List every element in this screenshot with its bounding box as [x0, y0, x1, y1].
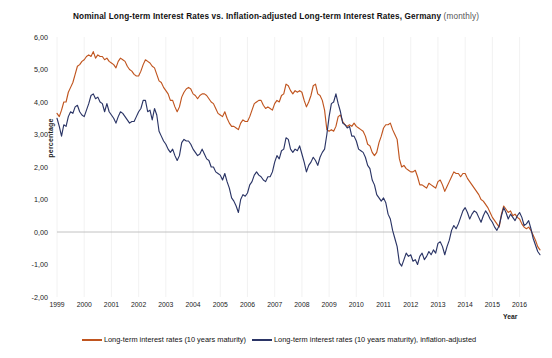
y-axis-tick-label: 6,00 — [18, 33, 48, 42]
y-axis-tick-label: -1,00 — [18, 260, 48, 269]
legend-item-real: Long-term interest rates (10 years matur… — [246, 335, 476, 344]
series-line-inflation-adjusted — [57, 94, 540, 266]
legend-label-nominal: Long-term interest rates (10 years matur… — [104, 335, 246, 344]
y-axis-tick-label: 2,00 — [18, 163, 48, 172]
chart-legend: Long-term interest rates (10 years matur… — [0, 335, 552, 344]
y-axis-tick-label: 1,00 — [18, 195, 48, 204]
legend-swatch-real — [252, 339, 272, 341]
x-axis-label: Year — [503, 313, 517, 320]
legend-swatch-nominal — [82, 339, 102, 341]
y-axis-tick-label: 0,00 — [18, 228, 48, 237]
y-axis-tick-label: 3,00 — [18, 130, 48, 139]
y-axis-tick-label: 5,00 — [18, 65, 48, 74]
chart-container: Nominal Long-term Interest Rates vs. Inf… — [0, 0, 552, 358]
legend-label-real: Long-term interest rates (10 years matur… — [274, 335, 476, 344]
series-line-nominal — [57, 52, 540, 250]
x-axis-tick-label: 2016 — [503, 301, 537, 308]
legend-item-nominal: Long-term interest rates (10 years matur… — [76, 335, 246, 344]
y-axis-tick-label: 4,00 — [18, 98, 48, 107]
